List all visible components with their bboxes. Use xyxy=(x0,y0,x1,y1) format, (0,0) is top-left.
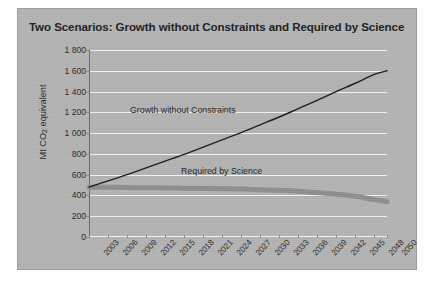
x-tick-label: 2045 xyxy=(368,238,387,257)
y-tick-label: 1 200 xyxy=(64,107,86,117)
y-axis-label: Mt CO2 equivalent xyxy=(38,67,48,177)
x-tick-mark xyxy=(241,235,242,238)
x-tick-label: 2021 xyxy=(216,238,235,257)
x-tick-label: 2042 xyxy=(349,238,368,257)
x-tick-mark xyxy=(222,235,223,238)
x-tick-mark xyxy=(127,235,128,238)
y-axis-label-prefix: Mt CO xyxy=(38,133,48,160)
x-tick-label: 2018 xyxy=(197,238,216,257)
x-tick-mark xyxy=(279,235,280,238)
y-tick-label: 1 000 xyxy=(64,128,86,138)
x-tick-mark xyxy=(317,235,318,238)
x-tick-label: 2036 xyxy=(311,238,330,257)
x-tick-mark xyxy=(374,235,375,238)
plot-wrapper: Mt CO2 equivalent 02004006008001 0001 20… xyxy=(18,9,418,271)
x-axis-tick-labels: 2003200620092012201520182021202420272030… xyxy=(89,238,399,278)
x-tick-mark xyxy=(336,235,337,238)
chart-panel: Two Scenarios: Growth without Constraint… xyxy=(17,8,417,270)
series-line xyxy=(89,187,387,202)
x-tick-label: 2039 xyxy=(330,238,349,257)
y-tick-label: 600 xyxy=(72,170,86,180)
y-axis-label-subscript: 2 xyxy=(41,129,48,133)
annotation-required-by-science: Required by Science xyxy=(181,166,262,176)
x-tick-mark xyxy=(89,235,90,238)
x-tick-mark xyxy=(203,235,204,238)
y-tick-label: 400 xyxy=(72,190,86,200)
x-tick-mark xyxy=(298,235,299,238)
x-tick-label: 2033 xyxy=(292,238,311,257)
x-tick-mark xyxy=(165,235,166,238)
screenshot-root: Two Scenarios: Growth without Constraint… xyxy=(0,0,434,285)
y-axis-label-suffix: equivalent xyxy=(38,85,48,129)
y-tick-label: 1 600 xyxy=(64,66,86,76)
x-tick-label: 2015 xyxy=(178,238,197,257)
x-tick-label: 2030 xyxy=(273,238,292,257)
x-tick-mark xyxy=(260,235,261,238)
x-tick-mark xyxy=(146,235,147,238)
y-tick-label: 800 xyxy=(72,149,86,159)
plot-area xyxy=(89,50,387,237)
x-tick-label: 2012 xyxy=(159,238,178,257)
annotation-growth-without-constraints: Growth without Constraints xyxy=(130,105,236,115)
x-tick-label: 2009 xyxy=(140,238,159,257)
y-axis-tick-labels: 02004006008001 0001 2001 4001 6001 800 xyxy=(50,50,86,237)
x-tick-label: 2024 xyxy=(235,238,254,257)
y-tick-label: 200 xyxy=(72,211,86,221)
y-tick-label: 1 400 xyxy=(64,87,86,97)
x-tick-label: 2006 xyxy=(121,238,140,257)
x-tick-label: 2027 xyxy=(254,238,273,257)
x-tick-label: 2003 xyxy=(102,238,121,257)
y-tick-label: 1 800 xyxy=(64,45,86,55)
x-tick-mark xyxy=(387,235,388,238)
data-series-layer xyxy=(89,50,387,237)
x-tick-mark xyxy=(108,235,109,238)
x-tick-mark xyxy=(355,235,356,238)
x-tick-mark xyxy=(184,235,185,238)
